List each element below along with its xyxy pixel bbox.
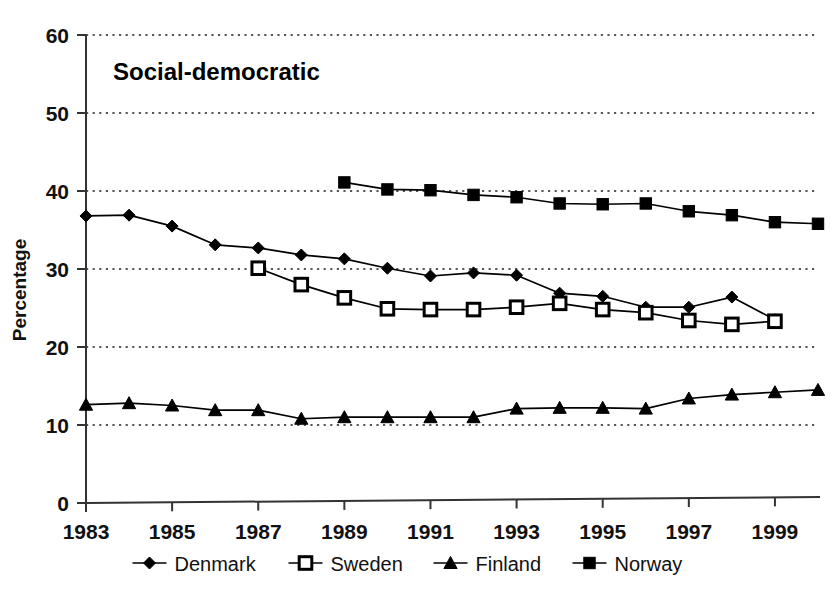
x-tick-label-1997: 1997 (665, 520, 712, 543)
legend-label-denmark: Denmark (175, 553, 257, 575)
y-tick-label-10: 10 (46, 414, 69, 437)
x-axis-tick-labels: 198319851987198919911993199519971999 (63, 520, 799, 543)
datapoint-sweden-1994 (553, 297, 566, 310)
datapoint-sweden-1996 (639, 306, 652, 319)
datapoint-sweden-1992 (467, 303, 480, 316)
datapoint-norway-1990 (382, 184, 393, 195)
datapoint-sweden-1998 (726, 318, 739, 331)
x-tick-label-1999: 1999 (752, 520, 799, 543)
datapoint-sweden-1991 (424, 303, 437, 316)
chart-background (0, 0, 832, 595)
x-tick-label-1995: 1995 (579, 520, 626, 543)
datapoint-norway-1994 (554, 198, 565, 209)
datapoint-norway-1999 (769, 217, 780, 228)
y-tick-label-0: 0 (57, 492, 69, 515)
datapoint-sweden-1989 (338, 292, 351, 305)
datapoint-norway-1992 (468, 189, 479, 200)
x-tick-label-1989: 1989 (321, 520, 368, 543)
chart-container: 0102030405060 19831985198719891991199319… (0, 0, 832, 595)
x-tick-label-1991: 1991 (407, 520, 454, 543)
datapoint-sweden-1997 (683, 314, 696, 327)
datapoint-sweden-1988 (295, 278, 308, 291)
y-tick-label-20: 20 (46, 336, 69, 359)
datapoint-norway-1995 (597, 199, 608, 210)
datapoint-norway-1993 (511, 192, 522, 203)
y-axis-title: Percentage (9, 239, 30, 341)
legend-marker-sweden (299, 557, 312, 570)
x-tick-label-1987: 1987 (235, 520, 282, 543)
datapoint-sweden-1999 (769, 315, 782, 328)
legend-marker-norway (584, 557, 595, 568)
x-tick-label-1983: 1983 (63, 520, 110, 543)
social-democratic-line-chart: 0102030405060 19831985198719891991199319… (0, 0, 832, 595)
y-tick-label-30: 30 (46, 258, 69, 281)
plot-title: Social-democratic (113, 58, 320, 85)
datapoint-norway-2000 (812, 218, 823, 229)
y-tick-label-40: 40 (46, 180, 69, 203)
datapoint-sweden-1995 (596, 303, 609, 316)
legend-label-norway: Norway (615, 553, 683, 575)
datapoint-sweden-1993 (510, 301, 523, 314)
legend-label-finland: Finland (476, 553, 542, 575)
x-tick-label-1993: 1993 (493, 520, 540, 543)
datapoint-norway-1989 (339, 177, 350, 188)
datapoint-sweden-1990 (381, 302, 394, 315)
x-tick-label-1985: 1985 (149, 520, 196, 543)
datapoint-norway-1991 (425, 185, 436, 196)
datapoint-norway-1998 (726, 209, 737, 220)
y-tick-label-50: 50 (46, 102, 69, 125)
datapoint-sweden-1987 (252, 262, 265, 275)
datapoint-norway-1997 (683, 206, 694, 217)
y-tick-label-60: 60 (46, 24, 69, 47)
legend-label-sweden: Sweden (331, 553, 403, 575)
datapoint-norway-1996 (640, 198, 651, 209)
